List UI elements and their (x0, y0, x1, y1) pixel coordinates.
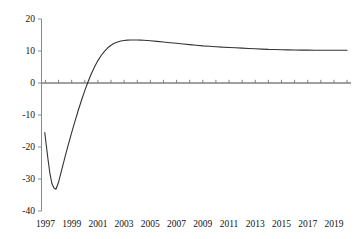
y-tick-label-0: 0 (5, 78, 35, 88)
y-tick-label-10: 10 (5, 46, 35, 56)
y-tick-label-20: 20 (5, 14, 35, 24)
axes-group (38, 19, 42, 211)
y-tick-label--30: -30 (5, 174, 35, 184)
y-tick-label--40: -40 (5, 206, 35, 216)
y-tick-label--20: -20 (5, 142, 35, 152)
data-series (45, 40, 347, 189)
series-line-response (45, 40, 347, 189)
line-chart-plot (0, 0, 358, 239)
y-tick-label--10: -10 (5, 110, 35, 120)
x-tick-label-2019: 2019 (314, 219, 354, 229)
chart-container: 20100-10-20-30-40 1997199920012003200520… (0, 0, 358, 239)
